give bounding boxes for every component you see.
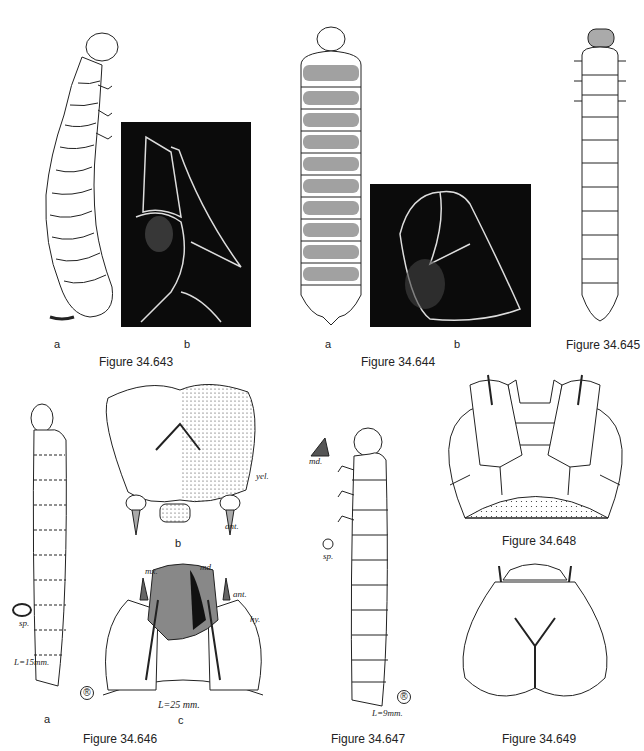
figure-caption: Figure 34.644 bbox=[361, 355, 435, 369]
label-hy: hy. bbox=[250, 614, 260, 624]
part-label-b: b bbox=[454, 338, 460, 350]
figure-caption: Figure 34.643 bbox=[99, 355, 173, 369]
larva-lateral-drawing bbox=[20, 400, 80, 700]
part-label-a: a bbox=[54, 338, 60, 350]
part-label-c: c bbox=[178, 714, 184, 726]
figure-caption: Figure 34.649 bbox=[502, 732, 576, 746]
spiracle-icon bbox=[12, 602, 32, 618]
larva-lateral-drawing bbox=[340, 420, 400, 720]
part-label-b: b bbox=[184, 338, 190, 350]
figure-caption: Figure 34.646 bbox=[83, 732, 157, 746]
mandible-detail-icon bbox=[309, 436, 331, 458]
head-dorsal-outline-drawing bbox=[455, 558, 615, 708]
label-md: md. bbox=[200, 562, 213, 572]
spiracle-icon bbox=[322, 538, 334, 550]
head-capsule-drawing bbox=[98, 380, 268, 530]
head-ventral-drawing bbox=[98, 560, 268, 700]
part-label-a: a bbox=[44, 713, 50, 725]
artist-mark-icon: ® bbox=[80, 686, 94, 700]
figure-caption: Figure 34.648 bbox=[502, 534, 576, 548]
label-ant: ant. bbox=[225, 521, 239, 531]
label-ant: ant. bbox=[233, 589, 247, 599]
larva-dorsal-drawing bbox=[291, 25, 371, 330]
label-length-a: L=15mm. bbox=[14, 657, 49, 667]
label-length-c: L=25 mm. bbox=[158, 699, 200, 710]
larva-lateral-drawing bbox=[20, 25, 120, 335]
label-md: md. bbox=[309, 456, 322, 466]
part-label-a: a bbox=[325, 338, 331, 350]
label-sp: sp. bbox=[323, 551, 333, 561]
mandible-photo bbox=[370, 184, 531, 327]
mandible-photo bbox=[121, 122, 251, 327]
part-label-b: b bbox=[175, 537, 181, 549]
label-yel: yel. bbox=[256, 471, 269, 481]
label-sp: sp. bbox=[19, 618, 29, 628]
artist-mark-icon: ® bbox=[397, 690, 411, 704]
head-ventral-outline-drawing bbox=[440, 375, 630, 525]
figure-caption: Figure 34.647 bbox=[331, 732, 405, 746]
label-length: L=9mm. bbox=[372, 708, 403, 718]
larva-dorsal-drawing bbox=[570, 25, 630, 330]
label-mx: mx. bbox=[145, 566, 158, 576]
figure-caption: Figure 34.645 bbox=[566, 338, 640, 352]
